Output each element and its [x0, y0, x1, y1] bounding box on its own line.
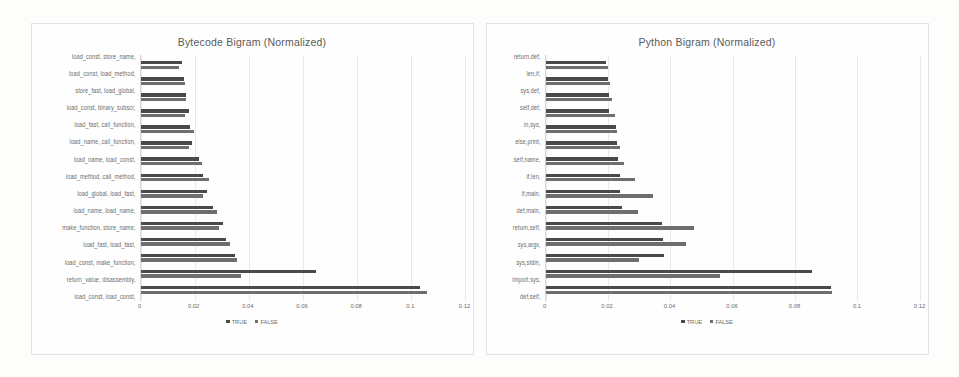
category-label: load_fast, call_function, — [32, 123, 140, 129]
gridline — [920, 55, 921, 301]
bar-group — [546, 156, 920, 167]
category-labels-bytecode: load_const, store_name,load_const, load_… — [32, 55, 140, 301]
bar-group — [546, 252, 920, 263]
bar-group — [546, 124, 920, 135]
chart-panel-python: Python Bigram (Normalized) return,def,le… — [486, 23, 929, 355]
bar-group — [546, 236, 920, 247]
bar-false — [141, 162, 203, 165]
bar-true — [141, 109, 189, 112]
bar-true — [141, 222, 223, 225]
legend-swatch-icon — [710, 320, 714, 324]
bar-true — [546, 286, 831, 289]
category-label: import,sys, — [487, 277, 545, 283]
bar-group — [546, 92, 920, 103]
bar-true — [546, 141, 618, 144]
bar-false — [141, 130, 194, 133]
category-label: load_method, call_method, — [32, 174, 140, 180]
bar-false — [141, 66, 179, 69]
x-axis-tick: 0.1 — [853, 303, 861, 309]
x-axis-tick: 0.12 — [914, 303, 925, 309]
bar-group — [141, 76, 465, 87]
x-axis-tick: 0.04 — [242, 303, 253, 309]
bar-false — [546, 242, 687, 245]
category-label: load_const, load_method, — [32, 71, 140, 77]
bars-region-python — [545, 55, 920, 301]
x-axis-ticks-python: 00.020.040.060.080.10.12 — [545, 302, 920, 316]
bar-group — [141, 284, 465, 295]
x-axis-python: 00.020.040.060.080.10.12 — [487, 302, 928, 316]
bar-true — [546, 109, 610, 112]
bar-group — [141, 108, 465, 119]
x-axis-tick: 0.02 — [188, 303, 199, 309]
bar-group — [546, 60, 920, 71]
bar-group — [546, 188, 920, 199]
x-axis-tick: 0 — [138, 303, 141, 309]
bar-true — [141, 190, 207, 193]
bar-groups-bytecode — [141, 55, 465, 301]
bar-false — [141, 114, 185, 117]
plot-area-python: return,def,len,if,sys,def,self,def,in,sy… — [487, 55, 928, 301]
bar-true — [546, 190, 621, 193]
bar-group — [546, 204, 920, 215]
legend-item-false[interactable]: FALSE — [710, 319, 733, 325]
bar-false — [141, 98, 186, 101]
bar-group — [141, 268, 465, 279]
category-label: if,len, — [487, 174, 545, 180]
category-label: load_const, make_function, — [32, 260, 140, 266]
category-label: self,name, — [487, 157, 545, 163]
x-axis-tick: 0.12 — [459, 303, 470, 309]
bar-false — [141, 194, 203, 197]
category-label: make_function, store_name, — [32, 226, 140, 232]
category-label: def,self, — [487, 294, 545, 300]
x-axis-tick: 0.08 — [789, 303, 800, 309]
bar-true — [546, 254, 664, 257]
bar-false — [546, 130, 618, 133]
bar-false — [141, 210, 217, 213]
bar-false — [546, 194, 654, 197]
category-labels-python: return,def,len,if,sys,def,self,def,in,sy… — [487, 55, 545, 301]
bar-true — [141, 286, 420, 289]
bar-false — [546, 210, 639, 213]
bar-true — [546, 222, 663, 225]
bar-group — [141, 124, 465, 135]
category-label: store_fast, load_global, — [32, 88, 140, 94]
legend-label: FALSE — [715, 319, 732, 325]
bar-true — [141, 141, 192, 144]
x-axis-tick: 0.1 — [406, 303, 414, 309]
x-axis-tick: 0 — [543, 303, 546, 309]
category-label: load_const, binary_subscr, — [32, 106, 140, 112]
bar-true — [546, 238, 664, 241]
category-label: load_const, store_name, — [32, 54, 140, 60]
bar-group — [141, 60, 465, 71]
bar-true — [141, 93, 187, 96]
category-label: len,if, — [487, 71, 545, 77]
bar-group — [546, 284, 920, 295]
bar-false — [546, 66, 608, 69]
bar-true — [546, 174, 620, 177]
bar-true — [141, 174, 204, 177]
category-label: load_const, load_const, — [32, 294, 140, 300]
x-axis-ticks-bytecode: 00.020.040.060.080.10.12 — [140, 302, 465, 316]
bar-true — [546, 206, 622, 209]
legend-item-false[interactable]: FALSE — [255, 319, 278, 325]
bar-group — [546, 172, 920, 183]
bar-false — [546, 258, 640, 261]
bar-false — [546, 146, 621, 149]
x-axis-tick: 0.04 — [664, 303, 675, 309]
bar-false — [141, 82, 186, 85]
bar-true — [141, 206, 213, 209]
x-axis-tick: 0.08 — [351, 303, 362, 309]
bar-true — [141, 157, 199, 160]
bar-false — [141, 242, 230, 245]
bar-true — [141, 238, 227, 241]
bar-false — [141, 226, 219, 229]
bar-groups-python — [546, 55, 920, 301]
bar-false — [546, 114, 615, 117]
bar-group — [546, 268, 920, 279]
legend-item-true[interactable]: TRUE — [226, 319, 247, 325]
bar-group — [141, 220, 465, 231]
bar-false — [546, 226, 695, 229]
bar-false — [546, 162, 625, 165]
legend-item-true[interactable]: TRUE — [681, 319, 702, 325]
category-label: load_name, call_function, — [32, 140, 140, 146]
